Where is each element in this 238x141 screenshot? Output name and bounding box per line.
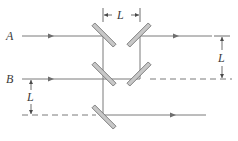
diagram-canvas: A B L L L	[0, 0, 238, 141]
arrow-icon	[173, 34, 179, 39]
beam-bottom-output	[103, 113, 206, 118]
beam-a-incoming	[22, 34, 103, 39]
beam-b-incoming	[22, 77, 103, 82]
mirror-bottom	[92, 105, 116, 129]
arrow-icon	[48, 34, 54, 39]
dimension-right-label: L	[218, 52, 225, 64]
mirror-middle-left	[92, 62, 116, 86]
mirror-top-right	[127, 23, 151, 47]
beam-b-label: B	[6, 73, 13, 85]
beam-a-output	[140, 34, 212, 39]
mirror-top-left	[92, 23, 116, 47]
mirror-middle-right	[127, 62, 151, 86]
dimension-left-label: L	[27, 91, 34, 103]
arrow-icon	[48, 77, 54, 82]
dimension-top-label: L	[117, 9, 124, 21]
beam-a-label: A	[6, 30, 13, 42]
arrow-icon	[170, 113, 176, 118]
